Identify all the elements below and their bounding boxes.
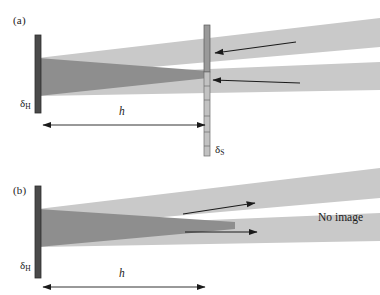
hole-size-subscript-a: H — [25, 102, 30, 111]
panel-label-b: (b) — [13, 184, 26, 196]
screen-size-subscript-a: S — [220, 148, 224, 157]
hole-bar-a — [35, 35, 41, 113]
hole-size-label-b: δH — [20, 259, 31, 271]
panel-b-beams — [38, 168, 380, 247]
diagram-canvas — [0, 0, 380, 295]
hole-bar-b — [35, 186, 41, 278]
screen-slit-a — [204, 72, 210, 156]
panel-b-hardware — [35, 186, 41, 278]
panel-label-a: (a) — [13, 14, 26, 26]
distance-label-b: h — [119, 267, 125, 279]
screen-bar-a — [204, 25, 210, 72]
screen-size-label-a: δS — [215, 143, 224, 155]
hole-size-subscript-b: H — [25, 264, 30, 273]
no-image-note: No image — [318, 211, 363, 223]
figure-root: (a) δH δS h (b) δH h No image — [0, 0, 380, 295]
hole-size-label-a: δH — [20, 97, 31, 109]
distance-label-a: h — [119, 105, 125, 117]
